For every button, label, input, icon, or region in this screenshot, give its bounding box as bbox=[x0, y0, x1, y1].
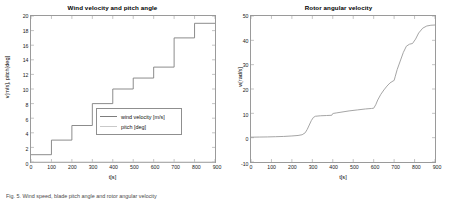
x-tick-label: 600 bbox=[151, 164, 160, 170]
chart-panel-wind-velocity-pitch: Wind velocity and pitch angle 0100200300… bbox=[0, 0, 225, 195]
x-tick-label: 300 bbox=[309, 164, 318, 170]
x-tick-label: 800 bbox=[192, 164, 201, 170]
figure-caption: Fig. 5. Wind speed, blade pitch angle an… bbox=[6, 193, 445, 199]
y-tick-label: 0 bbox=[246, 136, 249, 142]
x-tick-label: 900 bbox=[213, 164, 222, 170]
y-tick-label: 4 bbox=[26, 131, 29, 137]
x-tick-label: 0 bbox=[250, 164, 253, 170]
y-tick-label: 16 bbox=[23, 43, 29, 49]
y-tick-label: 10 bbox=[243, 112, 249, 118]
y-tick-label: 18 bbox=[23, 28, 29, 34]
x-axis-label: t[s] bbox=[0, 174, 225, 180]
y-tick-label: 30 bbox=[243, 62, 249, 68]
figure-container: Wind velocity and pitch angle 0100200300… bbox=[0, 0, 451, 201]
x-tick-label: 500 bbox=[130, 164, 139, 170]
legend-item-wind-velocity: wind velocity [m/s] bbox=[100, 112, 178, 122]
y-tick-label: 6 bbox=[26, 117, 29, 123]
y-tick-label: 50 bbox=[243, 13, 249, 19]
legend-line-icon-pitch bbox=[100, 126, 117, 127]
y-tick-label: 8 bbox=[26, 102, 29, 108]
chart-title: Rotor angular velocity bbox=[226, 4, 451, 11]
x-tick-label: 800 bbox=[412, 164, 421, 170]
plot-svg-right bbox=[251, 16, 435, 162]
y-tick-label: 2 bbox=[26, 146, 29, 152]
x-tick-label: 100 bbox=[267, 164, 276, 170]
y-tick-label: 0 bbox=[26, 161, 29, 167]
data-series-line bbox=[251, 25, 435, 137]
x-tick-label: 300 bbox=[89, 164, 98, 170]
chart-title: Wind velocity and pitch angle bbox=[0, 4, 225, 11]
x-axis-label: t[s] bbox=[250, 174, 436, 180]
y-axis-label: v[m/s], pitch[deg] bbox=[4, 32, 10, 122]
legend-label: wind velocity [m/s] bbox=[121, 114, 165, 120]
x-tick-label: 900 bbox=[433, 164, 442, 170]
chart-legend: wind velocity [m/s] pitch [deg] bbox=[96, 108, 182, 135]
y-tick-label: 14 bbox=[23, 57, 29, 63]
y-axis-label: w[rad/s] bbox=[237, 32, 243, 122]
plot-area-right: 0100200300400500600700800900-10010203040… bbox=[250, 15, 436, 163]
plot-svg-left bbox=[31, 16, 215, 162]
x-tick-label: 100 bbox=[47, 164, 56, 170]
chart-panel-rotor-angular-velocity: Rotor angular velocity 01002003004005006… bbox=[226, 0, 451, 195]
x-tick-label: 0 bbox=[30, 164, 33, 170]
x-tick-label: 400 bbox=[109, 164, 118, 170]
y-tick-label: -10 bbox=[241, 161, 249, 167]
x-tick-label: 200 bbox=[288, 164, 297, 170]
y-tick-label: 10 bbox=[23, 87, 29, 93]
x-tick-label: 400 bbox=[329, 164, 338, 170]
x-tick-label: 500 bbox=[350, 164, 359, 170]
y-tick-label: 20 bbox=[23, 13, 29, 19]
y-tick-label: 40 bbox=[243, 38, 249, 44]
x-tick-label: 200 bbox=[68, 164, 77, 170]
plot-area-left: 0100200300400500600700800900024681012141… bbox=[30, 15, 216, 163]
y-tick-label: 12 bbox=[23, 72, 29, 78]
x-tick-label: 700 bbox=[391, 164, 400, 170]
legend-label: pitch [deg] bbox=[121, 124, 146, 130]
legend-item-pitch: pitch [deg] bbox=[100, 122, 178, 132]
x-tick-label: 600 bbox=[371, 164, 380, 170]
legend-line-icon-wind-velocity bbox=[100, 116, 117, 117]
y-tick-label: 20 bbox=[243, 87, 249, 93]
x-tick-label: 700 bbox=[171, 164, 180, 170]
